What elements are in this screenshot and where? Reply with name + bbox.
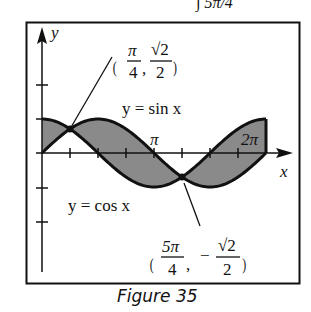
svg-text:(: (: [113, 58, 117, 78]
upper-point-annotation: ( π 4 , √2 2 ): [113, 40, 177, 82]
svg-text:(: (: [150, 255, 154, 275]
sin-label: y = sin x: [122, 99, 182, 118]
pi-tick-label: π: [150, 130, 159, 149]
svg-text:2: 2: [223, 260, 232, 279]
clipped-integral-text: ∫ 5π/4: [195, 0, 233, 13]
svg-text:): ): [242, 255, 246, 275]
svg-text:4: 4: [129, 63, 138, 82]
svg-text:√2: √2: [151, 40, 169, 59]
svg-text:−: −: [200, 246, 210, 265]
svg-text:): ): [173, 58, 177, 78]
lower-point-annotation: ( 5π 4 , − √2 2 ): [150, 236, 246, 279]
svg-text:π: π: [128, 41, 137, 60]
figure-35: ∫ 5π/4 y x π 2π y = sin x y = cos x: [0, 0, 311, 312]
svg-text:,: ,: [142, 59, 146, 78]
svg-text:4: 4: [168, 260, 177, 279]
lower-leader-line: [184, 183, 200, 226]
lower-intersection-dot: [179, 174, 186, 181]
two-pi-tick-label: 2π: [241, 130, 259, 149]
svg-text:5π: 5π: [162, 237, 180, 256]
svg-text:,: ,: [186, 255, 190, 274]
x-axis-label: x: [279, 162, 288, 181]
cos-label: y = cos x: [68, 196, 130, 215]
y-axis-label: y: [49, 23, 59, 42]
svg-text:2: 2: [156, 63, 165, 82]
figure-caption: Figure 35: [117, 286, 198, 306]
svg-text:√2: √2: [218, 236, 236, 255]
